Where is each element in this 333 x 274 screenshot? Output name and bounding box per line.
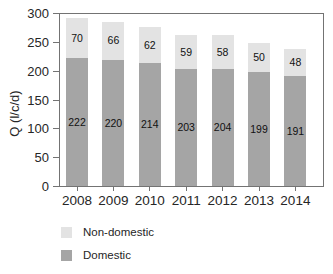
- bar-value-label-non-domestic-2013: 50: [253, 52, 265, 63]
- x-axis-tick-mark: [113, 187, 114, 191]
- bar-segment-non-domestic-2012: 58: [212, 35, 234, 68]
- legend-item-non-domestic: Non-domestic: [61, 226, 154, 239]
- y-axis-tick-mark: [53, 100, 59, 101]
- bar-value-label-domestic-2012: 204: [214, 122, 232, 133]
- bar-segment-domestic-2012: 204: [212, 69, 234, 187]
- bar-value-label-non-domestic-2010: 62: [144, 40, 156, 51]
- y-axis-tick-mark: [53, 71, 59, 72]
- legend-label-domestic: Domestic: [83, 249, 131, 262]
- y-axis-tick-label: 250: [17, 35, 49, 50]
- y-axis-tick-label: 100: [17, 121, 49, 136]
- bar-value-label-non-domestic-2012: 58: [217, 47, 229, 58]
- bar-value-label-domestic-2009: 220: [105, 118, 123, 129]
- bar-value-label-non-domestic-2008: 70: [71, 33, 83, 44]
- y-axis-tick-mark: [53, 186, 59, 187]
- y-axis-tick-label: 200: [17, 64, 49, 79]
- y-axis-tick-label: 50: [17, 150, 49, 165]
- x-axis-tick-mark: [77, 187, 78, 191]
- bar-segment-non-domestic-2008: 70: [66, 18, 88, 58]
- bar-value-label-domestic-2014: 191: [287, 126, 305, 137]
- legend-item-domestic: Domestic: [61, 249, 131, 262]
- y-axis-tick-mark: [53, 128, 59, 129]
- bar-segment-non-domestic-2010: 62: [139, 27, 161, 63]
- bar-segment-domestic-2011: 203: [175, 69, 197, 186]
- bar-segment-non-domestic-2014: 48: [284, 49, 306, 77]
- x-axis-tick-mark: [149, 187, 150, 191]
- y-axis-tick-label: 300: [17, 6, 49, 21]
- bar-segment-non-domestic-2009: 66: [102, 22, 124, 60]
- bar-value-label-domestic-2013: 199: [250, 124, 268, 135]
- stacked-bar-chart-figure: Q (l/c/d) Non-domestic Domestic 05010015…: [0, 0, 333, 274]
- legend-swatch-domestic: [61, 250, 72, 261]
- bar-segment-domestic-2008: 222: [66, 58, 88, 186]
- bar-segment-domestic-2010: 214: [139, 63, 161, 186]
- x-axis-tick-mark: [222, 187, 223, 191]
- bar-segment-domestic-2013: 199: [248, 72, 270, 187]
- x-axis-tick-mark: [259, 187, 260, 191]
- legend-swatch-non-domestic: [61, 227, 72, 238]
- y-axis-tick-mark: [53, 42, 59, 43]
- bar-segment-domestic-2009: 220: [102, 60, 124, 187]
- bar-segment-domestic-2014: 191: [284, 76, 306, 186]
- bar-value-label-domestic-2011: 203: [177, 122, 195, 133]
- y-axis-tick-mark: [53, 157, 59, 158]
- x-axis-tick-mark: [186, 187, 187, 191]
- x-axis-tick-mark: [295, 187, 296, 191]
- bar-value-label-domestic-2008: 222: [68, 117, 86, 128]
- bar-value-label-non-domestic-2011: 59: [180, 47, 192, 58]
- bar-value-label-non-domestic-2014: 48: [290, 57, 302, 68]
- bar-value-label-non-domestic-2009: 66: [108, 35, 120, 46]
- legend-label-non-domestic: Non-domestic: [83, 226, 154, 239]
- bar-segment-non-domestic-2011: 59: [175, 35, 197, 69]
- bar-segment-non-domestic-2013: 50: [248, 43, 270, 72]
- x-axis-tick-label: 2014: [273, 193, 317, 209]
- bar-value-label-domestic-2010: 214: [141, 119, 159, 130]
- y-axis-tick-label: 150: [17, 93, 49, 108]
- y-axis-tick-label: 0: [17, 179, 49, 194]
- y-axis-tick-mark: [53, 13, 59, 14]
